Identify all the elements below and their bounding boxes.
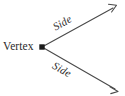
angle-diagram: Vertex Side Side bbox=[0, 0, 125, 96]
vertex-label: Vertex bbox=[3, 41, 34, 53]
vertex-point-marker bbox=[39, 44, 44, 49]
